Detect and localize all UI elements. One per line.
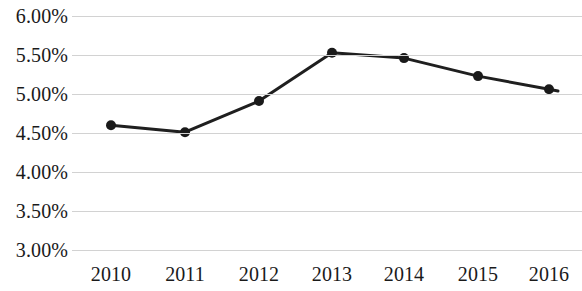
y-axis-tick-label: 4.00%: [0, 162, 68, 182]
data-point-marker: 2013: 5.53%: [327, 48, 337, 58]
y-axis-tick-label: 4.50%: [0, 123, 68, 143]
gridline: [72, 94, 582, 95]
gridline: [72, 211, 582, 212]
x-axis-tick-label: 2012: [239, 258, 279, 290]
x-axis: 2010201120122013201420152016: [72, 258, 582, 291]
data-point-marker: 2016: 5.06%: [544, 84, 554, 94]
y-axis-tick-label: 5.50%: [0, 45, 68, 65]
series-polyline: [111, 53, 549, 133]
gridline: [72, 172, 582, 173]
gridline: [72, 133, 582, 134]
x-axis-tick-label: 2016: [529, 258, 569, 290]
data-point-marker: 2015: 5.23%: [473, 71, 483, 81]
x-axis-tick-label: 2013: [312, 258, 352, 290]
data-point-marker: 2010: 4.60%: [106, 120, 116, 130]
line-chart: 6.00%5.50%5.00%4.50%4.00%3.50%3.00% 2010…: [0, 0, 582, 291]
x-axis-tick-label: 2014: [384, 258, 424, 290]
gridline: [72, 16, 582, 17]
y-axis: 6.00%5.50%5.00%4.50%4.00%3.50%3.00%: [0, 0, 68, 291]
y-axis-tick-label: 3.00%: [0, 240, 68, 260]
gridline: [72, 250, 582, 251]
y-axis-tick-label: 5.00%: [0, 84, 68, 104]
x-axis-tick-label: 2010: [91, 258, 131, 290]
gridline: [72, 55, 582, 56]
series-line: 2010: 4.60%2011: 4.51%2012: 4.91%2013: 5…: [72, 0, 582, 262]
x-axis-tick-label: 2011: [165, 258, 205, 290]
data-point-marker: 2012: 4.91%: [254, 96, 264, 106]
plot-area: 2010: 4.60%2011: 4.51%2012: 4.91%2013: 5…: [72, 0, 582, 262]
x-axis-tick-label: 2015: [458, 258, 498, 290]
y-axis-tick-label: 6.00%: [0, 6, 68, 26]
y-axis-tick-label: 3.50%: [0, 201, 68, 221]
